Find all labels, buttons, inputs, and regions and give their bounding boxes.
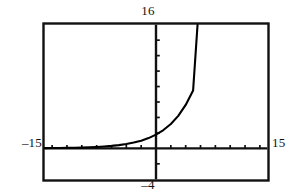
plot-area (0, 0, 296, 195)
graph-figure: 16 –15 15 –4 (0, 0, 296, 195)
